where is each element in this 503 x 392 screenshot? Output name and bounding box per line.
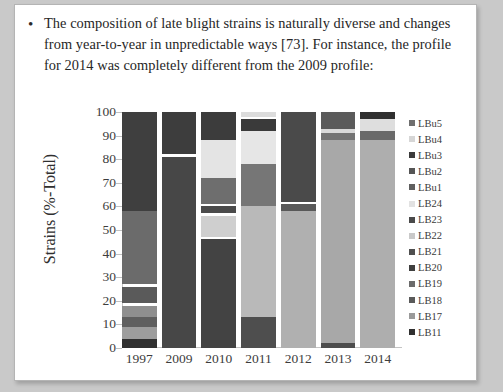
legend-item-LB19[interactable]: LB19 <box>409 276 473 292</box>
legend-item-label: LBu2 <box>418 166 442 177</box>
legend-swatch-icon <box>409 136 415 142</box>
legend-swatch-icon <box>409 329 415 335</box>
y-axis-tick-mark <box>116 348 122 349</box>
bar-segment-LB17[interactable] <box>241 206 276 317</box>
bar-segment-LB11[interactable] <box>201 239 236 348</box>
bar-segment-LB24[interactable] <box>241 131 276 164</box>
bar-segment-LB21[interactable] <box>241 164 276 206</box>
stacked-bar-2010[interactable] <box>201 112 236 348</box>
legend-item-label: LB23 <box>418 214 442 225</box>
chart-legend: LBu5LBu4LBu3LBu2LBu1LB24LB23LB22LB21LB20… <box>409 115 473 340</box>
legend-item-label: LB24 <box>418 198 442 209</box>
x-axis-tick-label: 2011 <box>241 351 276 367</box>
stacked-bar-2011[interactable] <box>241 112 276 348</box>
x-axis-tick-label: 1997 <box>122 351 157 367</box>
y-axis-tick-label: 0 <box>86 341 116 354</box>
slide-canvas: • The composition of late blight strains… <box>14 4 477 381</box>
legend-item-LB23[interactable]: LB23 <box>409 212 473 228</box>
bar-segment-LB17[interactable] <box>360 140 395 348</box>
bar-segment-LB11[interactable] <box>321 343 356 348</box>
bar-segment-LBu3[interactable] <box>360 112 395 119</box>
bullet-paragraph: • The composition of late blight strains… <box>28 13 458 77</box>
y-axis-tick-label: 100 <box>86 105 116 118</box>
legend-item-LBu3[interactable]: LBu3 <box>409 147 473 163</box>
legend-swatch-icon <box>409 249 415 255</box>
bar-segment-LB23[interactable] <box>122 112 157 211</box>
y-axis-tick-label: 60 <box>86 199 116 212</box>
legend-item-LBu4[interactable]: LBu4 <box>409 131 473 147</box>
legend-item-LB11[interactable]: LB11 <box>409 324 473 340</box>
legend-swatch-icon <box>409 168 415 174</box>
bar-segment-LB17[interactable] <box>281 211 316 348</box>
bar-segment-LB11[interactable] <box>122 339 157 348</box>
x-axis-tick-label: 2010 <box>201 351 236 367</box>
legend-swatch-icon <box>409 152 415 158</box>
bar-segment-LB21[interactable] <box>201 178 236 204</box>
legend-swatch-icon <box>409 265 415 271</box>
stacked-bar-1997[interactable] <box>122 112 157 348</box>
legend-item-LB18[interactable]: LB18 <box>409 292 473 308</box>
bar-segment-LB17[interactable] <box>201 216 236 237</box>
legend-item-label: LB22 <box>418 230 442 241</box>
stacked-bar-2013[interactable] <box>321 112 356 348</box>
y-axis-title: Strains (%-Total) <box>41 114 59 304</box>
bar-segment-LB11[interactable] <box>241 317 276 348</box>
bar-segment-LB19[interactable] <box>122 211 157 284</box>
x-axis-tick-label: 2013 <box>321 351 356 367</box>
legend-swatch-icon <box>409 313 415 319</box>
legend-swatch-icon <box>409 184 415 190</box>
y-axis-tick-label: 80 <box>86 152 116 165</box>
stacked-bar-2014[interactable] <box>360 112 395 348</box>
x-axis-tick-label: 2009 <box>162 351 197 367</box>
bar-segment-LBu5[interactable] <box>321 133 356 140</box>
legend-item-label: LBu1 <box>418 182 442 193</box>
legend-item-label: LB11 <box>418 327 442 338</box>
legend-swatch-icon <box>409 297 415 303</box>
legend-item-LB24[interactable]: LB24 <box>409 195 473 211</box>
bar-segment-LB17[interactable] <box>122 287 157 304</box>
legend-swatch-icon <box>409 281 415 287</box>
y-axis-tick-label: 40 <box>86 247 116 260</box>
legend-item-label: LBu3 <box>418 150 442 161</box>
bullet-body-text: The composition of late blight strains i… <box>44 13 458 77</box>
bar-segment-LB17[interactable] <box>122 317 157 326</box>
bar-segment-LBu1[interactable] <box>201 112 236 140</box>
bar-segment-LB17[interactable] <box>122 327 157 339</box>
legend-swatch-icon <box>409 120 415 126</box>
bar-segment-LB23[interactable] <box>162 112 197 154</box>
bar-segment-LBu3[interactable] <box>241 119 276 131</box>
bar-segment-LBu5[interactable] <box>321 112 356 129</box>
legend-item-label: LBu4 <box>418 134 442 145</box>
stacked-bar-2012[interactable] <box>281 112 316 348</box>
y-axis-tick-label: 50 <box>86 223 116 236</box>
y-axis-tick-label: 90 <box>86 129 116 142</box>
legend-item-LB17[interactable]: LB17 <box>409 308 473 324</box>
bar-segment-LBu4[interactable] <box>360 119 395 131</box>
legend-swatch-icon <box>409 233 415 239</box>
y-axis-tick-label: 10 <box>86 317 116 330</box>
legend-swatch-icon <box>409 217 415 223</box>
y-axis-tick-label: 20 <box>86 294 116 307</box>
legend-item-LBu2[interactable]: LBu2 <box>409 163 473 179</box>
bar-segment-LB24[interactable] <box>201 140 236 178</box>
y-axis-tick-label: 30 <box>86 270 116 283</box>
legend-item-LB22[interactable]: LB22 <box>409 228 473 244</box>
bar-segment-LB18[interactable] <box>201 206 236 213</box>
x-axis-tick-label: 2012 <box>281 351 316 367</box>
bar-segment-LB20[interactable] <box>162 157 197 348</box>
bar-segment-LB17[interactable] <box>321 140 356 343</box>
legend-swatch-icon <box>409 201 415 207</box>
legend-item-LB21[interactable]: LB21 <box>409 244 473 260</box>
legend-item-LBu5[interactable]: LBu5 <box>409 115 473 131</box>
x-axis-tick-label: 2014 <box>360 351 395 367</box>
legend-item-label: LB19 <box>418 278 442 289</box>
bar-segment-LB23[interactable] <box>281 112 316 202</box>
y-axis-tick-label: 70 <box>86 176 116 189</box>
bar-segment-LB17[interactable] <box>122 306 157 318</box>
bar-segment-LB24[interactable] <box>241 112 276 117</box>
bar-segment-LB23[interactable] <box>281 204 316 211</box>
bar-segment-LBu2[interactable] <box>360 131 395 140</box>
legend-item-LBu1[interactable]: LBu1 <box>409 179 473 195</box>
stacked-bar-2009[interactable] <box>162 112 197 348</box>
legend-item-LB20[interactable]: LB20 <box>409 260 473 276</box>
